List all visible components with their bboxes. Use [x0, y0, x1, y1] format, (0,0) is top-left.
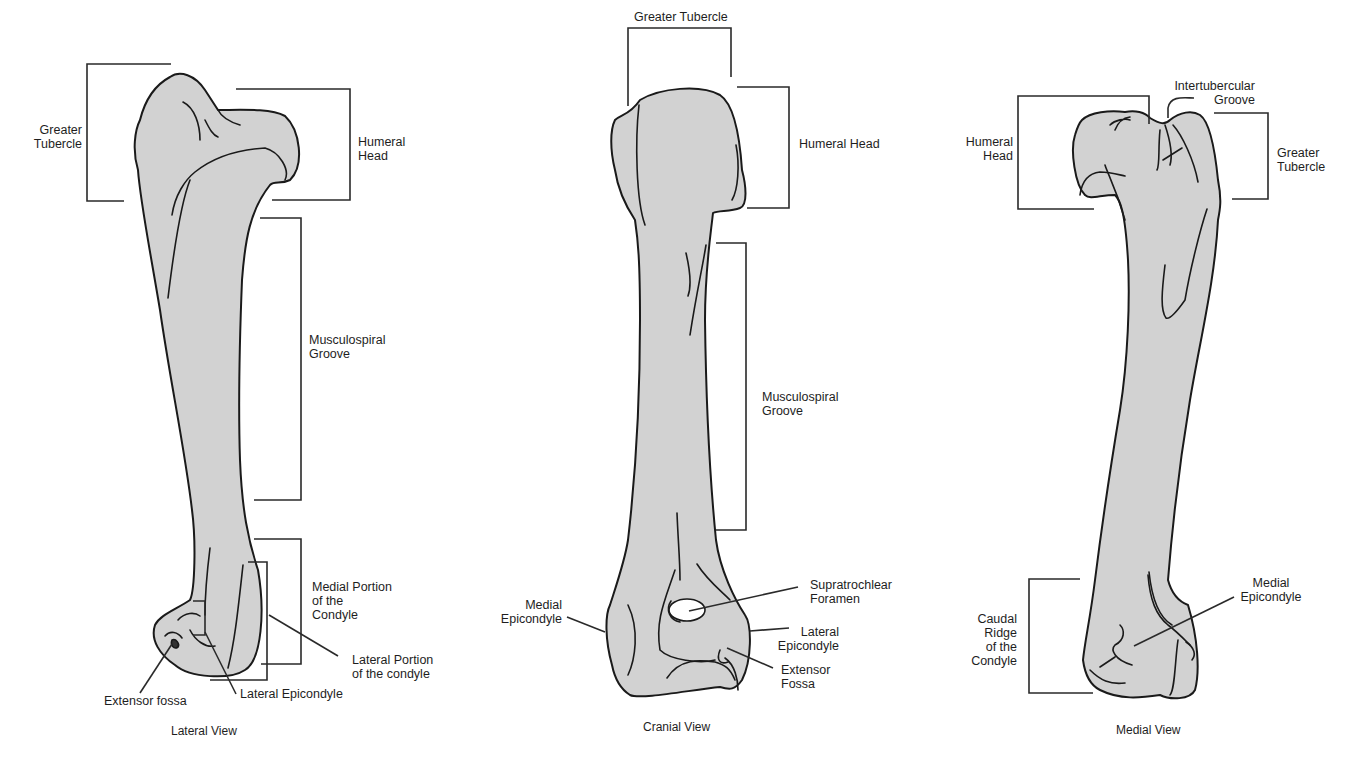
cranial-view-bone: [606, 89, 749, 697]
label-intertubercular-groove: Intertubercular Groove: [1160, 79, 1255, 107]
view-title-medial: Medial View: [1116, 723, 1180, 737]
bracket-greater-tubercle-medial: [1214, 113, 1268, 199]
bracket-caudal-ridge: [1029, 579, 1093, 693]
label-caudal-ridge-condyle: Caudal Ridge of the Condyle: [960, 612, 1017, 668]
bracket-musculospiral-lateral: [254, 218, 301, 500]
medial-view-bone: [1073, 111, 1220, 698]
label-medial-epicondyle-cranial: Medial Epicondyle: [490, 598, 562, 626]
label-medial-portion-condyle: Medial Portion of the Condyle: [312, 580, 392, 622]
label-musculospiral-groove-lateral: Musculospiral Groove: [309, 333, 385, 361]
label-greater-tubercle-medial: Greater Tubercle: [1277, 146, 1325, 174]
label-humeral-head-cranial: Humeral Head: [799, 137, 880, 151]
label-greater-tubercle-cranial: Greater Tubercle: [634, 10, 728, 24]
label-supratrochlear-foramen: Supratrochlear Foramen: [810, 578, 892, 606]
label-extensor-fossa-lateral: Extensor fossa: [104, 694, 187, 708]
label-humeral-head-medial: Humeral Head: [950, 135, 1013, 163]
label-lateral-portion-condyle: Lateral Portion of the condyle: [352, 653, 433, 681]
label-medial-epicondyle-medial: Medial Epicondyle: [1236, 576, 1306, 604]
label-humeral-head-lateral: Humeral Head: [358, 135, 405, 163]
label-musculospiral-groove-cranial: Musculospiral Groove: [762, 390, 838, 418]
label-lateral-epicondyle-lateral: Lateral Epicondyle: [240, 687, 343, 701]
bracket-musculospiral-cranial: [716, 243, 746, 530]
label-lateral-epicondyle-cranial: Lateral Epicondyle: [771, 625, 839, 653]
view-title-cranial: Cranial View: [643, 720, 710, 734]
humerus-diagram-canvas: [0, 0, 1354, 759]
label-extensor-fossa-cranial: Extensor Fossa: [781, 663, 830, 691]
lateral-view-bone: [135, 74, 299, 676]
label-greater-tubercle-lateral: Greater Tubercle: [22, 123, 82, 151]
view-title-lateral: Lateral View: [171, 724, 237, 738]
